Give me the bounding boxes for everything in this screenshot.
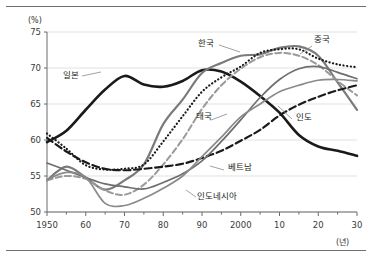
y-tick-labels: 505560657075 bbox=[30, 27, 41, 217]
svg-text:2000: 2000 bbox=[230, 220, 252, 230]
series-label: 태국 bbox=[196, 111, 212, 121]
series-label: 인도네시아 bbox=[197, 191, 237, 201]
svg-text:60: 60 bbox=[80, 220, 91, 230]
x-tick-marks bbox=[47, 212, 357, 216]
leader-line bbox=[82, 72, 101, 76]
svg-text:1950: 1950 bbox=[36, 220, 58, 230]
svg-text:55: 55 bbox=[30, 171, 41, 181]
series-label: 한국 bbox=[198, 38, 214, 48]
svg-text:10: 10 bbox=[274, 220, 285, 230]
leader-line bbox=[186, 190, 196, 197]
series-label: 일본 bbox=[63, 70, 79, 80]
leader-line bbox=[211, 114, 227, 120]
leader-line bbox=[210, 166, 224, 170]
leader-line bbox=[219, 45, 240, 52]
svg-text:60: 60 bbox=[30, 135, 41, 145]
svg-text:70: 70 bbox=[119, 220, 130, 230]
grid-lines bbox=[47, 32, 357, 212]
chart-figure: (%) (년) 505560657075 1950607080902000102… bbox=[0, 0, 372, 261]
svg-text:90: 90 bbox=[197, 220, 208, 230]
series-label: 베트남 bbox=[228, 162, 252, 172]
svg-text:20: 20 bbox=[313, 220, 324, 230]
x-tick-labels: 1950607080902000102030 bbox=[36, 220, 362, 230]
series-line bbox=[47, 66, 357, 189]
svg-text:70: 70 bbox=[30, 63, 41, 73]
svg-text:80: 80 bbox=[158, 220, 169, 230]
line-chart-plot: 505560657075 1950607080902000102030 일본한국… bbox=[0, 0, 372, 261]
series-label: 중국 bbox=[314, 34, 330, 44]
series-label: 인도 bbox=[296, 112, 312, 122]
axis-lines bbox=[47, 32, 357, 212]
svg-text:50: 50 bbox=[30, 207, 41, 217]
series-lines bbox=[47, 46, 357, 207]
svg-text:30: 30 bbox=[352, 220, 363, 230]
svg-text:65: 65 bbox=[30, 99, 41, 109]
svg-text:75: 75 bbox=[30, 27, 41, 37]
